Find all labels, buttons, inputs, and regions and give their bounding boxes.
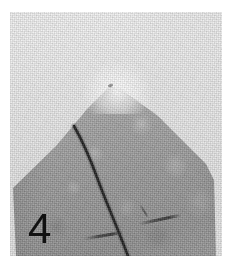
panel-label: 4 [28,208,51,250]
figure-panel: 4 [0,0,231,259]
photograph-plate: 4 [10,12,222,256]
